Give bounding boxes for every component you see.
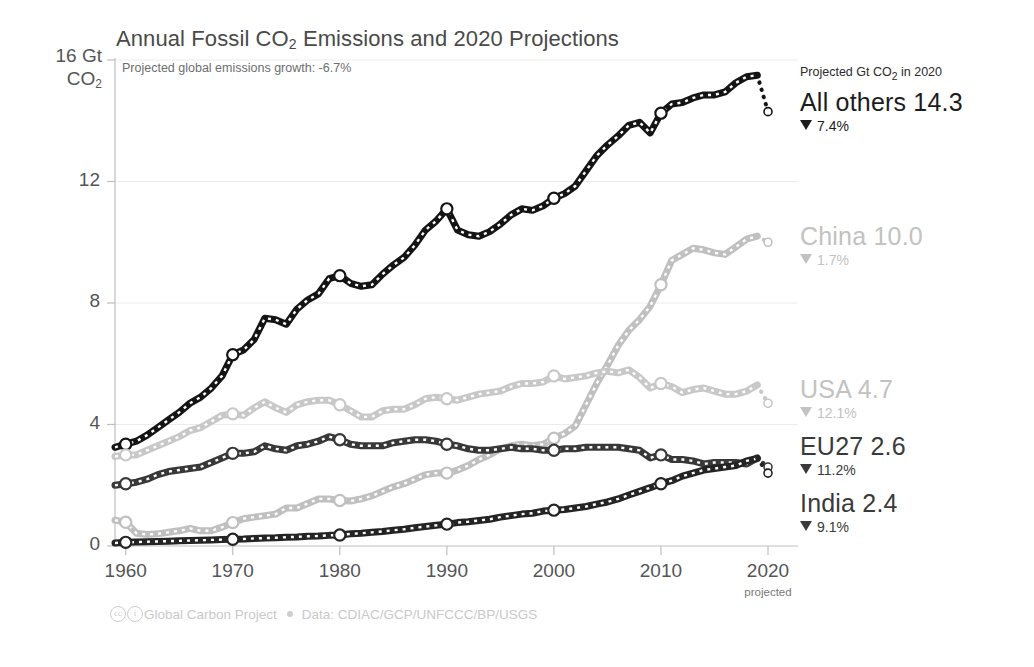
footer-data-credit: Data: CDIAC/GCP/UNFCCC/BP/USGS — [302, 607, 538, 622]
down-triangle-icon — [800, 464, 812, 474]
legend-change-all-others: 7.4% — [800, 118, 963, 134]
creative-commons-icon: cc — [110, 606, 126, 622]
y-axis-unit-line1: 16 Gt — [34, 44, 102, 67]
y-tick-0: 0 — [40, 533, 100, 555]
chart-subtitle: Projected global emissions growth: -6.7% — [122, 61, 351, 75]
legend-label-usa: USA 4.7 — [800, 375, 893, 404]
x-tick-1960: 1960 — [81, 560, 171, 582]
legend-entry-eu27[interactable]: EU27 2.6 11.2% — [800, 432, 906, 478]
x-tick-2010: 2010 — [616, 560, 706, 582]
y-axis-unit-co: CO — [67, 68, 96, 89]
legend-heading: Projected Gt CO2 in 2020 — [800, 62, 942, 82]
legend-entry-usa[interactable]: USA 4.7 12.1% — [800, 375, 893, 421]
legend-change-china: 1.7% — [800, 252, 923, 268]
legend-label-india: India 2.4 — [800, 489, 898, 518]
footer-separator-dot — [287, 611, 293, 617]
down-triangle-icon — [800, 254, 812, 264]
y-tick-4: 4 — [40, 412, 100, 434]
y-tick-12: 12 — [40, 169, 100, 191]
legend-entry-india[interactable]: India 2.4 9.1% — [800, 489, 898, 535]
title-text-post: Emissions and 2020 Projections — [297, 26, 619, 51]
legend-heading-pre: Projected Gt CO — [800, 65, 892, 79]
y-axis-unit-subscript: 2 — [95, 77, 102, 91]
footer-credit: cc i Global Carbon Project Data: CDIAC/G… — [110, 606, 537, 622]
title-text-pre: Annual Fossil CO — [116, 26, 289, 51]
legend-label-all-others: All others 14.3 — [800, 88, 963, 117]
x-tick-1990: 1990 — [402, 560, 492, 582]
legend-label-eu27: EU27 2.6 — [800, 432, 906, 461]
down-triangle-icon — [800, 120, 812, 130]
legend-label-china: China 10.0 — [800, 222, 923, 251]
legend-change-eu27: 11.2% — [800, 462, 906, 478]
y-axis-top-label: 16 Gt CO2 — [34, 44, 102, 96]
y-tick-8: 8 — [40, 290, 100, 312]
legend-entry-all-others[interactable]: All others 14.3 7.4% — [800, 88, 963, 134]
x-tick-1970: 1970 — [188, 560, 278, 582]
x-axis-projected-note: projected — [723, 586, 813, 598]
x-tick-2000: 2000 — [509, 560, 599, 582]
footer-org: Global Carbon Project — [144, 607, 277, 622]
legend-heading-post: in 2020 — [898, 65, 942, 79]
down-triangle-icon — [800, 521, 812, 531]
x-tick-1980: 1980 — [295, 560, 385, 582]
title-subscript: 2 — [289, 36, 297, 52]
attribution-icon: i — [127, 606, 143, 622]
legend-change-india: 9.1% — [800, 519, 898, 535]
y-axis-unit-line2: CO2 — [34, 67, 102, 96]
x-tick-2020: 2020 — [723, 560, 813, 582]
chart-page: Annual Fossil CO2 Emissions and 2020 Pro… — [0, 0, 1034, 667]
legend-entry-china[interactable]: China 10.0 1.7% — [800, 222, 923, 268]
page-title: Annual Fossil CO2 Emissions and 2020 Pro… — [116, 26, 619, 52]
legend-change-usa: 12.1% — [800, 405, 893, 421]
down-triangle-icon — [800, 407, 812, 417]
